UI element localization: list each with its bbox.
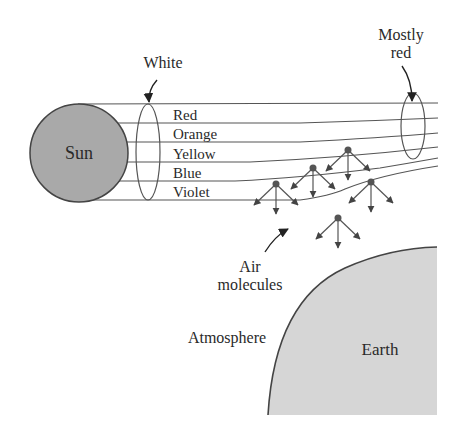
- mostly-red-label-line1: Mostly: [378, 26, 423, 44]
- white-light-ellipse: [136, 104, 160, 200]
- band-label-blue: Blue: [173, 165, 202, 181]
- white-label: White: [143, 54, 182, 71]
- mostly-red-label-line2: red: [391, 44, 411, 61]
- air-molecule: [349, 179, 393, 213]
- sun-label: Sun: [65, 143, 93, 163]
- band-label-yellow: Yellow: [173, 146, 216, 162]
- air-molecules: [254, 147, 393, 249]
- white-arrow: [149, 80, 157, 102]
- air-label-line1: Air: [239, 258, 261, 275]
- air-molecule: [326, 147, 370, 181]
- mostly-red-arrow: [402, 66, 412, 101]
- ray-red: [78, 103, 438, 104]
- earth-label: Earth: [362, 340, 399, 359]
- ray-blue: [78, 147, 438, 162]
- band-label-violet: Violet: [173, 184, 210, 200]
- air-molecule: [254, 181, 298, 215]
- band-label-orange: Orange: [173, 126, 217, 142]
- band-label-red: Red: [173, 107, 198, 123]
- atmosphere-label: Atmosphere: [188, 329, 266, 347]
- ray-yellow: [78, 133, 438, 142]
- ray-orange: [78, 118, 438, 123]
- diagram-svg: Earth Sun Red Orange Yellow Blue Violet: [0, 0, 454, 438]
- color-band-labels: Red Orange Yellow Blue Violet: [173, 107, 217, 200]
- air-molecule: [316, 215, 360, 249]
- scattering-diagram: Earth Sun Red Orange Yellow Blue Violet: [0, 0, 454, 438]
- air-molecules-arrow: [265, 229, 288, 252]
- air-label-line2: molecules: [218, 276, 283, 293]
- earth: Earth: [268, 247, 437, 415]
- sun: Sun: [30, 104, 128, 202]
- light-rays: [78, 103, 438, 200]
